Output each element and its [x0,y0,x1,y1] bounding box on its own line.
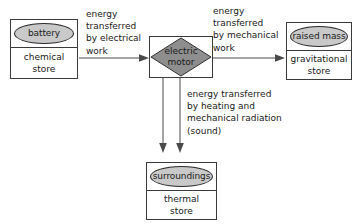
caption-line: work [86,45,141,57]
electric-motor-label: electric motor [150,37,212,77]
battery-store-type: chemical store [11,48,77,79]
caption-line: energy [86,8,141,20]
surroundings-store-line2: store [170,206,193,218]
caption-line: transferred [86,20,141,32]
battery-head: battery [11,20,77,48]
raised-mass-head: raised mass [287,23,351,51]
surroundings-label: surroundings [153,172,210,181]
raised-mass-store-type: gravitational store [287,51,351,80]
caption-line: by mechanical [213,29,279,41]
caption-line: work [213,42,279,54]
node-battery-chemical-store: battery chemical store [10,19,78,79]
caption-line: energy [213,5,279,17]
caption-line: energy transferred [187,88,282,100]
motor-label-line1: electric [164,46,197,57]
caption-heating-and-radiation: energy transferred by heating and mechan… [187,88,282,137]
caption-line: by electrical [86,32,141,44]
battery-label: battery [28,29,60,38]
caption-mechanical-work: energy transferred by mechanical work [213,5,279,54]
battery-store-line1: chemical [24,52,64,64]
node-raised-mass-gravitational-store: raised mass gravitational store [286,22,352,80]
caption-line: (sound) [187,125,282,137]
arrow-thermal-and-sound [155,78,189,156]
node-surroundings-thermal-store: surroundings thermal store [146,162,217,220]
caption-electrical-work: energy transferred by electrical work [86,8,141,57]
energy-transfer-diagram: battery chemical store electric motor ra… [0,0,360,224]
motor-label-line2: motor [167,57,194,68]
surroundings-store-type: thermal store [147,191,216,220]
node-electric-motor: electric motor [149,36,213,78]
raised-mass-store-line1: gravitational [290,54,347,66]
raised-mass-store-line2: store [308,66,331,78]
caption-line: transferred [213,17,279,29]
caption-line: by heating and [187,100,282,112]
surroundings-head: surroundings [147,163,216,191]
surroundings-store-line1: thermal [164,194,199,206]
raised-mass-label: raised mass [292,32,345,41]
battery-store-line2: store [33,64,56,76]
caption-line: mechanical radiation [187,112,282,124]
